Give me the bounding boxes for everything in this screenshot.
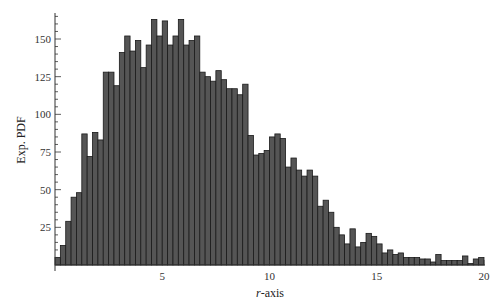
histogram-bar [157, 36, 162, 265]
histogram-bar [286, 167, 291, 265]
y-axis-title: Exp. PDF [14, 116, 28, 164]
histogram-bar [323, 200, 328, 265]
histogram-bars [55, 19, 484, 265]
histogram-bar [76, 193, 81, 265]
histogram-bar [259, 154, 264, 265]
histogram-bar [200, 72, 205, 265]
histogram-bar [87, 157, 92, 265]
histogram-bar [371, 236, 376, 265]
histogram-bar [414, 257, 419, 265]
histogram-bar [296, 170, 301, 265]
x-tick-label: 15 [371, 270, 383, 282]
histogram-bar [398, 253, 403, 265]
histogram-bar [60, 245, 65, 265]
histogram-bar [82, 134, 87, 265]
histogram-bar [194, 36, 199, 265]
histogram-bar [404, 257, 409, 265]
histogram-bar [135, 41, 140, 265]
histogram-bar [291, 158, 296, 265]
histogram-bar [189, 41, 194, 265]
histogram-bar [109, 72, 114, 265]
histogram-bar [243, 84, 248, 265]
histogram-bar [312, 176, 317, 265]
x-axis-title: r-axis [256, 286, 284, 300]
histogram-bar [55, 257, 60, 265]
histogram-bar [339, 235, 344, 265]
histogram-bar [168, 45, 173, 265]
y-tick-label: 50 [40, 184, 52, 196]
histogram-bar [248, 135, 253, 265]
histogram-bar [425, 259, 430, 265]
histogram-bar [387, 250, 392, 265]
y-tick-label: 100 [35, 108, 52, 120]
y-tick-label: 75 [40, 146, 52, 158]
histogram-bar [211, 81, 216, 265]
histogram-bar [366, 233, 371, 265]
histogram-bar [436, 254, 441, 265]
histogram-bar [66, 221, 71, 265]
histogram-bar [227, 89, 232, 265]
histogram-bar [302, 176, 307, 265]
histogram-bar [141, 68, 146, 265]
histogram-bar [130, 51, 135, 265]
histogram-bar [334, 227, 339, 265]
histogram-bar [441, 260, 446, 265]
histogram-bar [205, 77, 210, 265]
histogram-bar [479, 257, 484, 265]
histogram-bar [345, 244, 350, 265]
x-tick-label: 20 [479, 270, 491, 282]
histogram-bar [452, 260, 457, 265]
histogram-bar [98, 140, 103, 265]
histogram-bar [350, 229, 355, 265]
histogram-chart: 2550751001251505101520 r-axis Exp. PDF [0, 0, 503, 305]
histogram-bar [393, 254, 398, 265]
histogram-bar [237, 95, 242, 265]
histogram-bar [71, 197, 76, 265]
histogram-bar [146, 45, 151, 265]
histogram-bar [446, 260, 451, 265]
histogram-bar [382, 253, 387, 265]
histogram-bar [216, 71, 221, 265]
histogram-bar [162, 21, 167, 265]
histogram-bar [409, 257, 414, 265]
histogram-bar [125, 36, 130, 265]
histogram-bar [463, 256, 468, 265]
y-tick-label: 125 [35, 71, 52, 83]
histogram-bar [173, 36, 178, 265]
histogram-bar [119, 53, 124, 265]
histogram-bar [103, 72, 108, 265]
histogram-bar [264, 150, 269, 265]
histogram-bar [420, 259, 425, 265]
histogram-bar [221, 80, 226, 265]
histogram-bar [361, 242, 366, 265]
histogram-bar [178, 19, 183, 265]
histogram-bar [355, 247, 360, 265]
histogram-bar [184, 45, 189, 265]
histogram-bar [232, 89, 237, 265]
histogram-bar [307, 170, 312, 265]
histogram-bar [457, 260, 462, 265]
histogram-bar [93, 132, 98, 265]
histogram-bar [114, 86, 119, 265]
histogram-bar [275, 134, 280, 265]
histogram-bar [270, 137, 275, 265]
histogram-bar [328, 212, 333, 265]
y-tick-label: 150 [35, 33, 52, 45]
histogram-bar [473, 259, 478, 265]
histogram-bar [377, 244, 382, 265]
x-tick-label: 5 [160, 270, 166, 282]
histogram-bar [318, 206, 323, 265]
x-tick-label: 10 [264, 270, 276, 282]
histogram-bar [253, 155, 258, 265]
histogram-bar [280, 138, 285, 265]
y-tick-label: 25 [40, 221, 52, 233]
histogram-bar [152, 19, 157, 265]
